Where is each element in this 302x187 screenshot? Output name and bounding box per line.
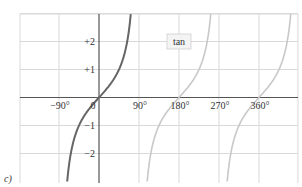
- y-tick-label: +1: [84, 64, 95, 75]
- x-tick-label: 0: [91, 100, 96, 111]
- legend-label: tan: [173, 36, 185, 47]
- y-tick-label: −1: [84, 120, 95, 131]
- x-tick-label: 90°: [133, 100, 147, 111]
- legend: tan: [167, 34, 191, 49]
- panel-label: c): [4, 173, 12, 185]
- x-tick-label: −90°: [50, 100, 70, 111]
- y-tick-label: +2: [84, 36, 95, 47]
- y-tick-label: −2: [84, 148, 95, 159]
- grid: [20, 14, 298, 184]
- axes: [20, 14, 298, 183]
- x-tick-label: 180°: [171, 100, 190, 111]
- tan-chart: −90°090°180°270°360°+2+1−1−2 tan c): [0, 0, 302, 187]
- x-tick-label: 360°: [251, 100, 270, 111]
- x-tick-label: 270°: [211, 100, 230, 111]
